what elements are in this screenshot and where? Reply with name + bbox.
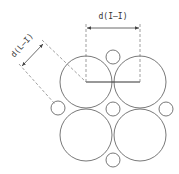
extension-line-diag-upper <box>42 40 86 82</box>
large-circles <box>60 56 166 161</box>
large-circle-bottom-right <box>114 109 166 161</box>
small-circle-bottom <box>106 153 120 167</box>
label-d-i-i: d(I—I) <box>99 12 128 21</box>
label-d-l-i: d(L—I) <box>9 32 35 60</box>
diagram-canvas: d(I—I) d(L—I) <box>0 0 179 174</box>
small-circles <box>51 50 173 167</box>
diagram-svg: d(I—I) d(L—I) <box>0 0 179 174</box>
small-circle-right <box>159 102 173 116</box>
large-circle-bottom-left <box>60 109 112 161</box>
small-circle-top <box>106 50 120 64</box>
extension-line-diag-lower <box>19 64 55 104</box>
small-circle-center <box>106 102 120 116</box>
extension-lines <box>19 24 140 104</box>
small-circle-left <box>51 101 65 115</box>
